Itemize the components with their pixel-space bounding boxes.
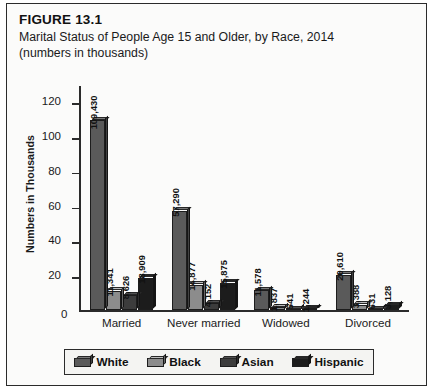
bar-face [172,211,187,311]
y-tick-80: 80 [72,173,79,174]
x-axis-label-married: Married [81,316,163,329]
bar-group: 57,29014,8774,15215,875Never married [163,86,245,310]
bar-side-face [399,300,402,308]
y-tick-label-100: 100 [42,130,61,142]
bar-groups: 109,43011,3418,62618,909Married57,29014,… [81,86,409,310]
figure-header: FIGURE 13.1 Marital Status of People Age… [19,12,412,61]
bar-side-face [121,286,124,309]
bar-side-face [187,206,190,309]
x-axis-label-widowed: Widowed [245,316,327,329]
bar-black-divorced: 3,388 [352,305,367,311]
bar-side-face [203,280,206,309]
bar-value-label: 20,610 [335,252,344,281]
bar-black-widowed: 1,837 [270,307,285,310]
y-tick-label-20: 20 [48,269,61,281]
y-tick-label-120: 120 [42,95,61,107]
legend-label: Asian [242,355,274,369]
legend-swatch-side [163,354,166,366]
legend-swatch-white [74,358,91,367]
legend-swatch-black [147,358,164,367]
chart-plot-area: Numbers in Thousands 20406080100120 0 10… [7,80,428,320]
legend-item-asian: Asian [220,355,274,369]
bar-value-label: 15,875 [218,260,227,289]
bar-side-face [351,270,354,309]
bar-hispanic-widowed: 1,244 [302,308,317,310]
chart-legend: WhiteBlackAsianHispanic [64,349,374,375]
bar-value-label: 109,430 [88,95,97,129]
legend-label: Black [169,355,200,369]
legend-item-white: White [74,355,128,369]
legend-swatch-hispanic [292,358,309,367]
figure-number: FIGURE 13.1 [19,12,412,28]
bar-value-label: 11,578 [252,268,261,296]
y-tick-40: 40 [72,242,79,243]
bar-hispanic-never-married: 15,875 [220,283,235,311]
y-tick-label-0: 0 [61,308,67,320]
bar-hispanic-married: 18,909 [138,278,153,311]
x-axis-label-divorced: Divorced [327,316,409,329]
y-tick-100: 100 [72,138,79,139]
bar-group: 109,43011,3418,62618,909Married [81,86,163,310]
bar-side-face [153,273,156,309]
bar-white-divorced: 20,610 [336,275,351,311]
legend-swatch-side [308,354,311,366]
y-axis-title: Numbers in Thousands [24,109,36,279]
bar-black-married: 11,341 [106,291,121,311]
bar-asian-never-married: 4,152 [204,303,219,310]
y-tick-20: 20 [72,277,79,278]
legend-label: White [96,355,128,369]
bar-value-label: 18,909 [136,255,145,284]
bar-value-label: 57,290 [170,188,179,217]
bar-white-widowed: 11,578 [254,290,269,310]
bar-white-married: 109,430 [90,120,105,310]
bar-side-face [269,286,272,309]
legend-item-black: Black [147,355,200,369]
y-tick-120: 120 [72,103,79,104]
bar-black-never-married: 14,877 [188,285,203,311]
legend-item-hispanic: Hispanic [292,355,363,369]
y-tick-label-60: 60 [48,200,61,212]
legend-swatch-asian [220,358,237,367]
bar-white-never-married: 57,290 [172,211,187,311]
legend-swatch-side [90,354,93,366]
figure-title: Marital Status of People Age 15 and Olde… [19,30,389,61]
bar-face [90,120,105,310]
chart-axes: 20406080100120 0 109,43011,3418,62618,90… [79,86,409,312]
bar-asian-married: 8,626 [122,295,137,310]
figure-frame: FIGURE 13.1 Marital Status of People Age… [6,3,427,386]
y-tick-60: 60 [72,208,79,209]
bar-asian-widowed: 541 [286,309,301,311]
legend-swatch-side [236,354,239,366]
bar-group: 11,5781,8375411,244Widowed [245,86,327,310]
bar-side-face [235,278,238,309]
y-tick-label-80: 80 [48,165,61,177]
y-tick-label-40: 40 [48,234,61,246]
legend-label: Hispanic [314,355,363,369]
bar-group: 20,6103,3886313,128Divorced [327,86,409,310]
bar-side-face [105,116,108,309]
x-axis-label-never-married: Never married [163,316,245,329]
bar-asian-divorced: 631 [368,309,383,311]
x-axis-line [79,310,409,312]
